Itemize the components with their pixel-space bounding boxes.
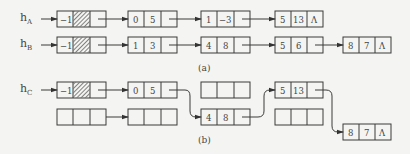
hatched-cell [74, 12, 90, 27]
coef: 5 [280, 15, 285, 25]
hatched-cell [74, 38, 90, 53]
null-pointer: Λ [378, 128, 386, 138]
head-coef: −1 [60, 41, 73, 51]
exp: 8 [223, 41, 228, 51]
caption-b: (b) [198, 135, 211, 145]
coef: 0 [133, 86, 138, 96]
caption-a: (a) [198, 63, 210, 73]
linked-list-diagram: hA hB hC −1 −1 −1 0 5 1 −3 5 13 Λ 1 3 4 … [0, 0, 410, 154]
null-pointer: Λ [310, 15, 318, 25]
exp: 7 [364, 128, 369, 138]
exp: 5 [150, 15, 155, 25]
diagram: hA hB hC −1 −1 −1 0 5 1 −3 5 13 Λ 1 3 4 … [0, 0, 410, 154]
exp: 13 [293, 15, 304, 25]
head-coef: −1 [60, 15, 73, 25]
freed-node [275, 109, 323, 125]
head-coef: −1 [60, 86, 73, 96]
head-label-b: hB [20, 37, 32, 52]
coef: 5 [280, 41, 285, 51]
exp: −3 [219, 15, 232, 25]
exp: 8 [223, 113, 228, 123]
exp: 3 [150, 41, 155, 51]
coef: 5 [280, 86, 285, 96]
coef: 4 [206, 113, 211, 123]
coef: 8 [348, 128, 353, 138]
head-label-c: hC [20, 82, 32, 97]
null-pointer: Λ [378, 41, 386, 51]
freed-node [57, 109, 106, 125]
coef: 1 [133, 41, 138, 51]
hatched-cell [74, 83, 90, 98]
freed-node [128, 109, 177, 125]
head-label-a: hA [20, 11, 33, 26]
coef: 0 [133, 15, 138, 25]
exp: 7 [364, 41, 369, 51]
list-b [41, 37, 391, 53]
coef: 1 [206, 15, 211, 25]
coef: 8 [348, 41, 353, 51]
freed-node [201, 82, 250, 98]
exp: 6 [296, 41, 301, 51]
coef: 4 [206, 41, 211, 51]
exp: 13 [293, 86, 304, 96]
exp: 5 [150, 86, 155, 96]
